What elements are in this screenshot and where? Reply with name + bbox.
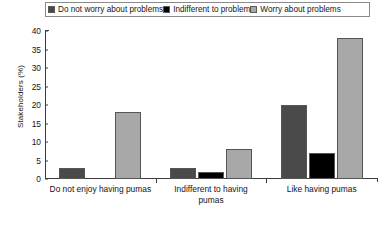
x-axis-category-label: Indifferent to having pumas (156, 184, 267, 205)
bar (309, 153, 335, 179)
bar-group (266, 31, 377, 179)
bar-group (45, 31, 156, 179)
bar (337, 38, 363, 179)
x-axis-end-tick (377, 178, 378, 182)
bar-chart: Do not worry about problemsIndifferent t… (0, 0, 385, 225)
x-axis-category-label: Like having pumas (266, 184, 377, 205)
legend-item-2[interactable]: Worry about problems (250, 5, 340, 14)
bar-slot (170, 31, 196, 179)
x-axis-category-label: Do not enjoy having pumas (45, 184, 156, 205)
y-tick-label: 0 (36, 174, 45, 184)
bar (115, 112, 141, 179)
plot-wrapper: 0510152025303540 (45, 31, 377, 179)
y-tick-label: 30 (32, 63, 45, 73)
y-tick-label: 5 (36, 156, 45, 166)
legend-label: Indifferent to problem (173, 5, 250, 14)
bar-slot (226, 31, 252, 179)
bar-slot (198, 31, 224, 179)
chart-legend: Do not worry about problemsIndifferent t… (45, 2, 370, 17)
y-tick-label: 20 (32, 100, 45, 110)
bar-slot (87, 31, 113, 179)
bar (59, 168, 85, 179)
legend-swatch-icon (163, 6, 170, 13)
x-tick-mark (156, 179, 157, 183)
bar (198, 172, 224, 179)
y-tick-label: 10 (32, 137, 45, 147)
bar-slot (115, 31, 141, 179)
legend-swatch-icon (250, 6, 257, 13)
legend-swatch-icon (48, 6, 55, 13)
y-tick-label: 25 (32, 82, 45, 92)
y-tick-label: 15 (32, 119, 45, 129)
bar (281, 105, 307, 179)
legend-item-1[interactable]: Indifferent to problem (163, 5, 250, 14)
legend-item-0[interactable]: Do not worry about problems (48, 5, 163, 14)
bar (226, 149, 252, 179)
y-tick-label: 35 (32, 45, 45, 55)
y-tick-label: 40 (32, 26, 45, 36)
y-axis-title: Stakeholders (%) (16, 37, 25, 157)
x-tick-mark (266, 179, 267, 183)
bar-slot (281, 31, 307, 179)
bar-groups (45, 31, 377, 179)
bar-slot (59, 31, 85, 179)
bar-group (156, 31, 267, 179)
bar (170, 168, 196, 179)
legend-label: Worry about problems (260, 5, 340, 14)
bar-slot (309, 31, 335, 179)
legend-label: Do not worry about problems (58, 5, 163, 14)
x-axis-labels: Do not enjoy having pumasIndifferent to … (45, 184, 377, 205)
bar-slot (337, 31, 363, 179)
